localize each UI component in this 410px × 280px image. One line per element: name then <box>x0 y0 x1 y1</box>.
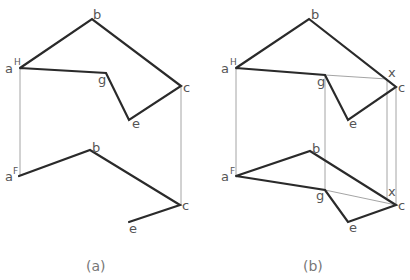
label-a-sup-H: H <box>230 57 237 67</box>
caption-a: (a) <box>86 258 106 274</box>
label-a-sup-H: H <box>14 57 21 67</box>
label-e-top: e <box>132 116 140 131</box>
front-view-outline <box>19 150 180 222</box>
panel-b: a H b c e g x a F b c e g x (b) <box>221 7 405 274</box>
label-e-top: e <box>349 116 357 131</box>
label-a-sup-F: F <box>230 166 235 176</box>
label-b-front: b <box>312 141 320 156</box>
label-a-front: a <box>221 169 229 184</box>
label-a-top: a <box>221 61 229 76</box>
label-g-top: g <box>317 74 325 89</box>
label-b-top: b <box>93 7 101 22</box>
label-c-top: c <box>183 80 190 95</box>
top-view-outline <box>20 19 181 120</box>
top-view-outline <box>236 19 396 120</box>
construction-gx-top <box>325 75 387 79</box>
panel-a: a H b c e g a F b c e (a) <box>5 7 190 274</box>
caption-b: (b) <box>303 258 323 274</box>
label-a-front: a <box>5 169 13 184</box>
label-c-front: c <box>398 198 405 213</box>
label-c-front: c <box>182 198 189 213</box>
label-c-top: c <box>398 80 405 95</box>
label-a-sup-F: F <box>13 166 18 176</box>
orthographic-projection-diagram: a H b c e g a F b c e (a) a H b c e g x <box>0 0 410 280</box>
label-b-top: b <box>311 7 319 22</box>
label-g-top: g <box>98 72 106 87</box>
label-x-front: x <box>388 184 396 199</box>
label-g-front: g <box>316 188 324 203</box>
label-a-top: a <box>5 61 13 76</box>
label-e-front: e <box>349 220 357 235</box>
front-view-outline <box>236 151 396 222</box>
label-e-front: e <box>129 221 137 236</box>
label-x-top: x <box>388 65 396 80</box>
label-b-front: b <box>92 140 100 155</box>
